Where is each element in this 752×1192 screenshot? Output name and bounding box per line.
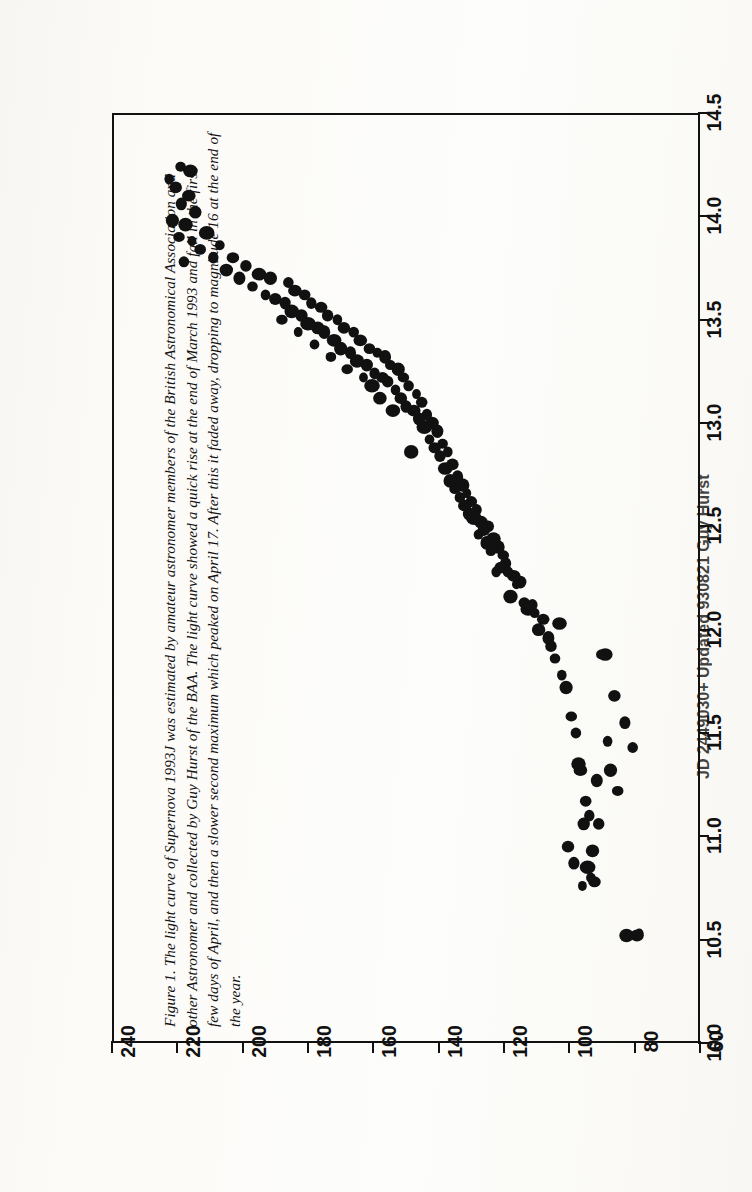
data-point [562, 841, 575, 853]
data-point [227, 252, 240, 263]
magnitude-axis-label: 10.5 [703, 911, 726, 967]
data-point [532, 623, 545, 636]
magnitude-axis-label: 14.0 [703, 188, 726, 244]
data-point [550, 654, 561, 664]
data-point [578, 881, 587, 891]
data-point [233, 272, 245, 286]
data-point [603, 736, 613, 747]
magnitude-axis-label: 12.5 [703, 498, 726, 554]
data-point [591, 774, 603, 788]
data-point [215, 240, 225, 250]
jd-tick [372, 1041, 374, 1053]
jd-tick [503, 1041, 505, 1053]
data-point [425, 435, 435, 445]
jd-axis-label: 60 [705, 1013, 728, 1071]
data-point [164, 174, 174, 185]
jd-axis-label: 80 [639, 1013, 662, 1071]
data-point [188, 236, 197, 246]
data-point [315, 302, 328, 313]
data-point [310, 340, 320, 350]
data-point [580, 861, 596, 875]
data-point [596, 650, 607, 660]
data-point [199, 226, 215, 240]
data-point [560, 681, 573, 695]
data-point [503, 590, 517, 604]
scatter-points [112, 113, 700, 1043]
data-point [568, 857, 579, 870]
jd-tick [111, 1041, 113, 1053]
data-point [269, 293, 282, 305]
data-point [404, 445, 418, 459]
data-point [412, 389, 421, 399]
data-point [438, 462, 453, 475]
data-point [552, 617, 567, 630]
data-point [586, 873, 596, 883]
magnitude-axis-label: 14.5 [703, 85, 726, 141]
data-point [586, 844, 599, 857]
data-point [175, 162, 186, 172]
jd-axis-label: 120 [509, 1013, 532, 1071]
data-point [178, 218, 192, 232]
data-point [578, 818, 590, 831]
data-point [247, 282, 258, 292]
data-point [619, 716, 630, 729]
data-point [491, 566, 501, 577]
data-point [333, 314, 343, 325]
jd-tick [634, 1041, 636, 1053]
magnitude-axis-label: 13.5 [703, 291, 726, 347]
data-point [391, 384, 401, 395]
scanned-page: Figure 1. The light curve of Supernova 1… [0, 0, 752, 1192]
data-point [194, 244, 206, 255]
jd-axis-label: 140 [443, 1013, 466, 1071]
data-point [261, 289, 271, 300]
data-point [166, 214, 179, 228]
magnitude-axis-label: 13.0 [703, 395, 726, 451]
data-point [220, 264, 233, 277]
data-point [173, 232, 185, 242]
data-point [283, 277, 294, 288]
data-point [326, 352, 337, 362]
jd-axis-label: 100 [574, 1013, 597, 1071]
data-point [341, 364, 353, 374]
data-point [519, 597, 531, 608]
data-point [619, 929, 633, 943]
magnitude-axis-label: 11.5 [703, 705, 726, 761]
data-point [176, 198, 187, 211]
data-point [557, 670, 567, 681]
data-point [373, 392, 386, 405]
light-curve-chart [112, 113, 700, 1043]
data-point [580, 796, 592, 807]
data-point [608, 690, 621, 702]
data-point [294, 327, 303, 337]
data-point [179, 256, 190, 267]
data-point [359, 373, 368, 383]
magnitude-axis-label: 12.0 [703, 601, 726, 657]
data-point [566, 712, 578, 722]
jd-tick [568, 1041, 570, 1053]
jd-tick [176, 1041, 178, 1053]
jd-axis-label: 160 [378, 1013, 401, 1071]
data-point [612, 786, 624, 796]
data-point [444, 474, 457, 488]
jd-tick [699, 1041, 701, 1053]
jd-tick [242, 1041, 244, 1053]
data-point [571, 728, 582, 739]
jd-axis-label: 200 [247, 1013, 270, 1071]
jd-axis-label: 220 [182, 1013, 205, 1071]
data-point [364, 343, 376, 354]
jd-tick [307, 1041, 309, 1053]
magnitude-axis-label: 11.0 [703, 808, 726, 864]
data-point [604, 763, 617, 777]
data-point [189, 206, 201, 219]
data-point [571, 757, 585, 771]
data-point [252, 268, 267, 281]
data-point [276, 315, 288, 325]
data-point [627, 742, 638, 753]
data-point [386, 404, 401, 417]
data-point [240, 260, 251, 272]
data-point [593, 818, 604, 830]
data-point [474, 530, 484, 540]
jd-axis-label: 240 [117, 1013, 140, 1071]
jd-tick [438, 1041, 440, 1053]
data-point [208, 252, 218, 264]
